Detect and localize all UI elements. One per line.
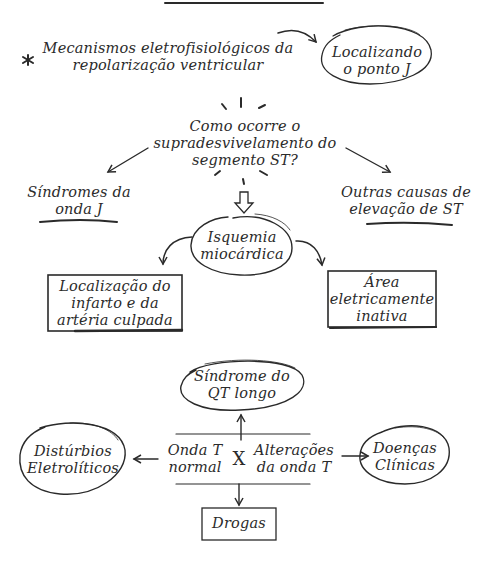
node-line: Doenças (360, 440, 450, 457)
versus-mark: X (229, 450, 249, 467)
node-line: segmento ST? (150, 152, 340, 169)
arrow-to-j-wave (108, 148, 148, 172)
node-line: QT longo (184, 385, 300, 402)
j-wave-underline (40, 220, 117, 222)
node-ischemia: Isquemia miocárdica (190, 229, 294, 263)
node-line: Isquemia (190, 229, 294, 246)
intro-line-2: repolarização ventricular (38, 57, 298, 74)
arrow-to-inactive-area (296, 241, 322, 265)
hollow-down-arrow-icon (235, 192, 253, 213)
node-line: Onda T (160, 442, 230, 459)
asterisk-icon (23, 55, 33, 65)
node-line: infarto e da (48, 295, 182, 312)
node-line: Distúrbios (18, 443, 128, 460)
node-line: Alterações (252, 442, 336, 459)
node-long-qt: Síndrome do QT longo (184, 368, 300, 402)
node-j-wave-syndromes: Síndromes da onda J (24, 184, 134, 218)
node-question-st: Como ocorre o supradesvivelamento do seg… (150, 118, 340, 169)
node-line: artéria culpada (48, 312, 182, 329)
node-line: Localização do (48, 278, 182, 295)
node-normal-t-wave: Onda T normal (160, 442, 230, 476)
arrow-to-other-causes (346, 148, 390, 172)
node-other-st-causes: Outras causas de elevação de ST (336, 184, 476, 218)
node-clinical-diseases: Doenças Clínicas (360, 440, 450, 474)
node-line: da onda T (252, 459, 336, 476)
node-line: miocárdica (190, 246, 294, 263)
node-infarct-location: Localização do infarto e da artéria culp… (48, 278, 182, 329)
node-drugs: Drogas (202, 515, 276, 532)
intro-line-1: Mecanismos eletrofisiológicos da (38, 40, 298, 57)
node-line: normal (160, 459, 230, 476)
other-causes-underline (367, 223, 452, 225)
node-line: Área (328, 274, 436, 291)
node-line: Como ocorre o (150, 118, 340, 135)
node-line: onda J (24, 201, 134, 218)
node-line: Síndrome do (184, 368, 300, 385)
node-line: eletricamente (328, 291, 436, 308)
node-electrolyte-disorders: Distúrbios Eletrolíticos (18, 443, 128, 477)
node-t-wave-changes: Alterações da onda T (252, 442, 336, 476)
node-line: o ponto J (322, 61, 432, 78)
node-line: supradesvivelamento do (150, 135, 340, 152)
arrow-to-infarct-location (163, 237, 192, 264)
node-line: Outras causas de (336, 184, 476, 201)
node-localizando-ponto-j: Localizando o ponto J (322, 44, 432, 78)
intro-text: Mecanismos eletrofisiológicos da repolar… (38, 40, 298, 74)
node-line: elevação de ST (336, 201, 476, 218)
node-line: Eletrolíticos (18, 460, 128, 477)
node-line: Síndromes da (24, 184, 134, 201)
node-line: Localizando (322, 44, 432, 61)
node-line: inativa (328, 308, 436, 325)
node-inactive-area: Área eletricamente inativa (328, 274, 436, 325)
node-line: Clínicas (360, 457, 450, 474)
